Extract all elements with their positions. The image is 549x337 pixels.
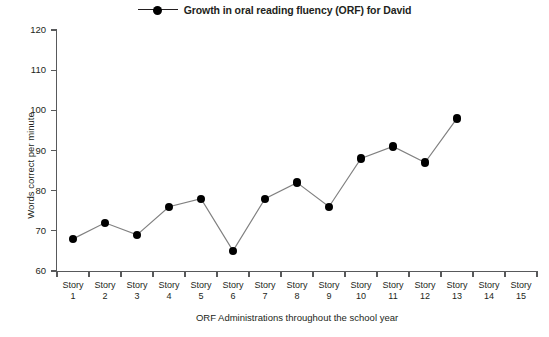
x-tick-label-top: Story [281, 280, 313, 291]
x-tick-label-top: Story [89, 280, 121, 291]
x-tick-label-bottom: 6 [217, 291, 249, 302]
x-tick-label-top: Story [217, 280, 249, 291]
data-point [389, 142, 397, 150]
x-tick-label-bottom: 2 [89, 291, 121, 302]
x-tick [88, 271, 89, 277]
orf-line-chart: Growth in oral reading fluency (ORF) for… [0, 0, 549, 337]
x-tick [280, 271, 281, 277]
x-axis-title: ORF Administrations throughout the schoo… [57, 312, 537, 323]
x-tick [440, 271, 441, 277]
x-tick-label-top: Story [249, 280, 281, 291]
x-tick-label-bottom: 8 [281, 291, 313, 302]
x-tick-label: Story12 [409, 280, 441, 302]
x-tick [184, 271, 185, 277]
x-tick-label: Story15 [505, 280, 537, 302]
x-tick-label-bottom: 15 [505, 291, 537, 302]
data-point [421, 158, 429, 166]
x-tick-label-bottom: 11 [377, 291, 409, 302]
x-tick-label-bottom: 13 [441, 291, 473, 302]
x-tick-label-top: Story [409, 280, 441, 291]
x-tick [152, 271, 153, 277]
x-tick [312, 271, 313, 277]
x-tick [536, 271, 537, 277]
x-tick-label-bottom: 4 [153, 291, 185, 302]
data-point [453, 114, 461, 122]
x-tick-label-bottom: 3 [121, 291, 153, 302]
x-tick-label-bottom: 7 [249, 291, 281, 302]
data-point [261, 195, 269, 203]
x-tick-label-top: Story [153, 280, 185, 291]
x-tick-label: Story5 [185, 280, 217, 302]
data-point [293, 178, 301, 186]
x-tick-label-bottom: 14 [473, 291, 505, 302]
x-tick-label-bottom: 1 [57, 291, 89, 302]
x-tick-label: Story10 [345, 280, 377, 302]
x-tick-label: Story3 [121, 280, 153, 302]
x-tick-label-top: Story [185, 280, 217, 291]
x-tick-label: Story7 [249, 280, 281, 302]
series-line [57, 30, 537, 271]
x-tick-label-bottom: 10 [345, 291, 377, 302]
x-tick-label-top: Story [313, 280, 345, 291]
data-point [165, 203, 173, 211]
x-tick-label: Story6 [217, 280, 249, 302]
x-tick-label: Story4 [153, 280, 185, 302]
x-tick-label-top: Story [121, 280, 153, 291]
x-tick [344, 271, 345, 277]
x-tick-label: Story8 [281, 280, 313, 302]
x-tick-label-top: Story [57, 280, 89, 291]
x-tick [216, 271, 217, 277]
x-tick-label: Story9 [313, 280, 345, 302]
x-tick-label-top: Story [473, 280, 505, 291]
x-tick-label: Story2 [89, 280, 121, 302]
x-tick-label-top: Story [441, 280, 473, 291]
x-tick [248, 271, 249, 277]
x-tick-label: Story14 [473, 280, 505, 302]
x-tick-label-bottom: 5 [185, 291, 217, 302]
x-tick [472, 271, 473, 277]
x-tick-label-top: Story [505, 280, 537, 291]
x-tick [120, 271, 121, 277]
data-point [325, 203, 333, 211]
x-tick-label-bottom: 12 [409, 291, 441, 302]
x-tick [504, 271, 505, 277]
x-tick-label: Story1 [57, 280, 89, 302]
data-point [197, 195, 205, 203]
x-tick-label: Story11 [377, 280, 409, 302]
x-tick [408, 271, 409, 277]
x-tick-label: Story13 [441, 280, 473, 302]
x-tick-label-top: Story [377, 280, 409, 291]
data-point [357, 154, 365, 162]
plot-area [57, 30, 537, 271]
x-tick-label-bottom: 9 [313, 291, 345, 302]
x-tick [56, 271, 57, 277]
x-tick-label-top: Story [345, 280, 377, 291]
x-tick [376, 271, 377, 277]
